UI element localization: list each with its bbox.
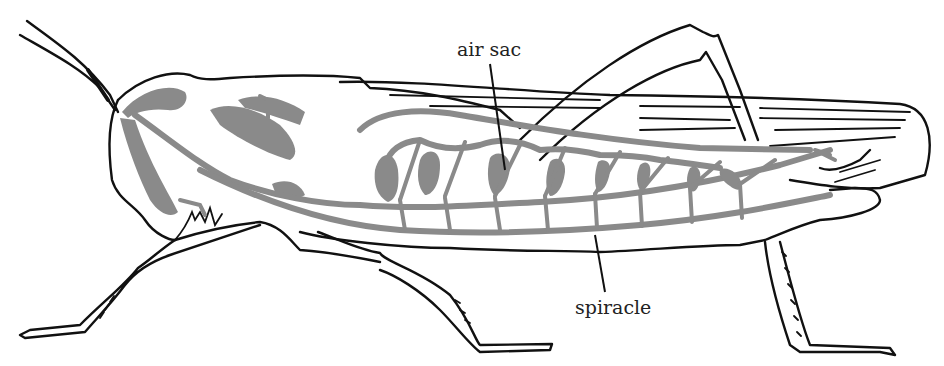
legs: [20, 225, 895, 355]
label-spiracle: spiracle: [575, 298, 651, 317]
antennae: [20, 21, 118, 112]
tracheal-system: [120, 88, 835, 233]
spiracle-leader-line: [595, 235, 605, 292]
label-air-sac: air sac: [457, 40, 521, 59]
